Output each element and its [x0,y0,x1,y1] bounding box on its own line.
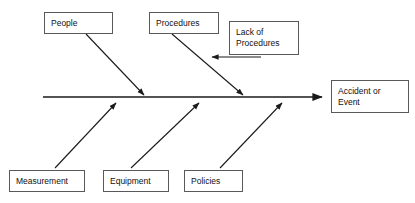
fishbone-diagram: People Procedures Lack of Procedures Acc… [0,0,415,203]
cause-label-procedures: Procedures [156,18,199,29]
effect-label-line1: Accident or [338,86,381,97]
cause-box-equipment[interactable]: Equipment [103,170,169,192]
cause-label-people: People [51,18,77,29]
cause-box-people[interactable]: People [44,12,113,34]
sub-cause-box-lack-of-procedures[interactable]: Lack of Procedures [229,21,299,55]
cause-box-measurement[interactable]: Measurement [9,170,85,192]
cause-label-measurement: Measurement [16,176,68,187]
cause-box-procedures[interactable]: Procedures [149,12,219,34]
branch-arrow-equipment [131,103,199,168]
branch-arrow-measurement [55,103,116,168]
branch-arrow-people [86,34,144,95]
cause-box-policies[interactable]: Policies [184,170,243,192]
sub-cause-label-line2: Procedures [236,38,279,49]
effect-label-line2: Event [338,97,360,108]
sub-cause-label-line1: Lack of [236,27,263,38]
branch-arrow-policies [220,103,282,168]
cause-label-equipment: Equipment [110,176,151,187]
cause-label-policies: Policies [191,176,220,187]
effect-box-accident-or-event[interactable]: Accident or Event [331,80,409,113]
